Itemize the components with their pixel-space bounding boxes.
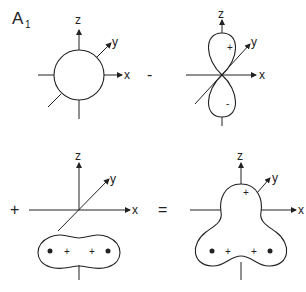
x-axis-label: x	[124, 68, 130, 82]
sphere-shape	[54, 50, 104, 100]
svg-text:1: 1	[25, 19, 31, 30]
panel-pz-orbital: + - z y x	[186, 7, 265, 126]
svg-text:A: A	[12, 9, 24, 28]
equals-operator: =	[158, 201, 167, 218]
y-axis-label: y	[112, 35, 118, 49]
svg-text:y: y	[110, 172, 116, 186]
trilobe-shape	[195, 184, 286, 266]
svg-text:x: x	[298, 203, 304, 217]
panel-s-orbital: z y x	[38, 13, 130, 119]
svg-text:z: z	[237, 149, 243, 163]
panel-result-hybrid: + + + z y x	[190, 149, 304, 280]
minus-operator: -	[147, 66, 152, 83]
panel-ligand-combination: + + z y x	[29, 149, 138, 280]
svg-text:x: x	[132, 203, 138, 217]
svg-text:z: z	[75, 149, 81, 163]
plus-operator: +	[10, 201, 19, 218]
orbital-diagram: A 1 z y x - + - z y x + +	[0, 0, 306, 292]
z-axis-label: z	[75, 13, 81, 27]
svg-text:z: z	[218, 7, 224, 21]
svg-text:-: -	[226, 98, 229, 109]
svg-text:+: +	[64, 246, 70, 257]
svg-text:x: x	[259, 68, 265, 82]
svg-text:y: y	[272, 171, 278, 185]
svg-text:+: +	[89, 246, 95, 257]
svg-text:+: +	[243, 187, 249, 198]
svg-text:+: +	[227, 42, 233, 53]
svg-text:+: +	[251, 246, 257, 257]
diagram-title: A 1	[12, 9, 31, 30]
svg-text:+: +	[225, 246, 231, 257]
svg-text:y: y	[251, 35, 257, 49]
